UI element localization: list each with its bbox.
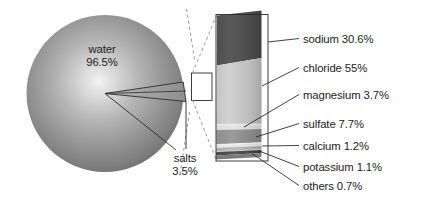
bar-segment-sulfate: [216, 129, 261, 145]
leader-line-others: [252, 154, 299, 186]
salts-label-name: salts: [157, 152, 213, 165]
legend-label-potassium: potassium 1.1%: [303, 161, 382, 174]
expansion-guide-upper-arc: [187, 9, 196, 62]
leader-line-sodium: [268, 39, 299, 43]
leader-line-chloride: [262, 68, 299, 87]
legend-label-calcium: calcium 1.2%: [303, 140, 369, 153]
leader-line-sulfate: [256, 124, 299, 138]
legend-label-magnesium: magnesium 3.7%: [303, 89, 389, 102]
legend-label-others: others 0.7%: [303, 180, 362, 193]
bar-segment-sodium: [217, 11, 262, 66]
water-label-group: water 96.5%: [62, 43, 142, 69]
expansion-guide-bottom: [193, 100, 217, 160]
leader-line-potassium: [258, 151, 299, 167]
bar-segment-chloride: [216, 58, 261, 125]
leader-line-calcium: [262, 146, 299, 147]
bar-segment-magnesium: [216, 124, 261, 130]
seawater-composition-figure: water 96.5% salts 3.5% sodium 30.6% chlo…: [0, 0, 422, 201]
water-label-name: water: [62, 43, 142, 56]
water-label-value: 96.5%: [62, 56, 142, 69]
legend-label-sodium: sodium 30.6%: [303, 33, 373, 46]
legend-label-chloride: chloride 55%: [303, 62, 367, 75]
salts-label-value: 3.5%: [157, 165, 213, 178]
salts-label-group: salts 3.5%: [157, 152, 213, 178]
salts-breakout-bar: [216, 11, 262, 160]
expansion-guide-top: [193, 16, 217, 74]
legend-label-sulfate: sulfate 7.7%: [303, 118, 364, 131]
source-region-rect: [192, 73, 213, 101]
